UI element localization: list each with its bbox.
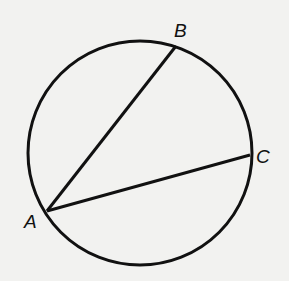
diagram-canvas: A B C (0, 0, 289, 281)
chord-ac (47, 155, 250, 211)
point-label-a: A (23, 211, 37, 232)
point-label-c: C (256, 146, 270, 167)
circle (28, 41, 252, 265)
chord-ab (47, 46, 176, 211)
point-label-b: B (174, 20, 187, 41)
